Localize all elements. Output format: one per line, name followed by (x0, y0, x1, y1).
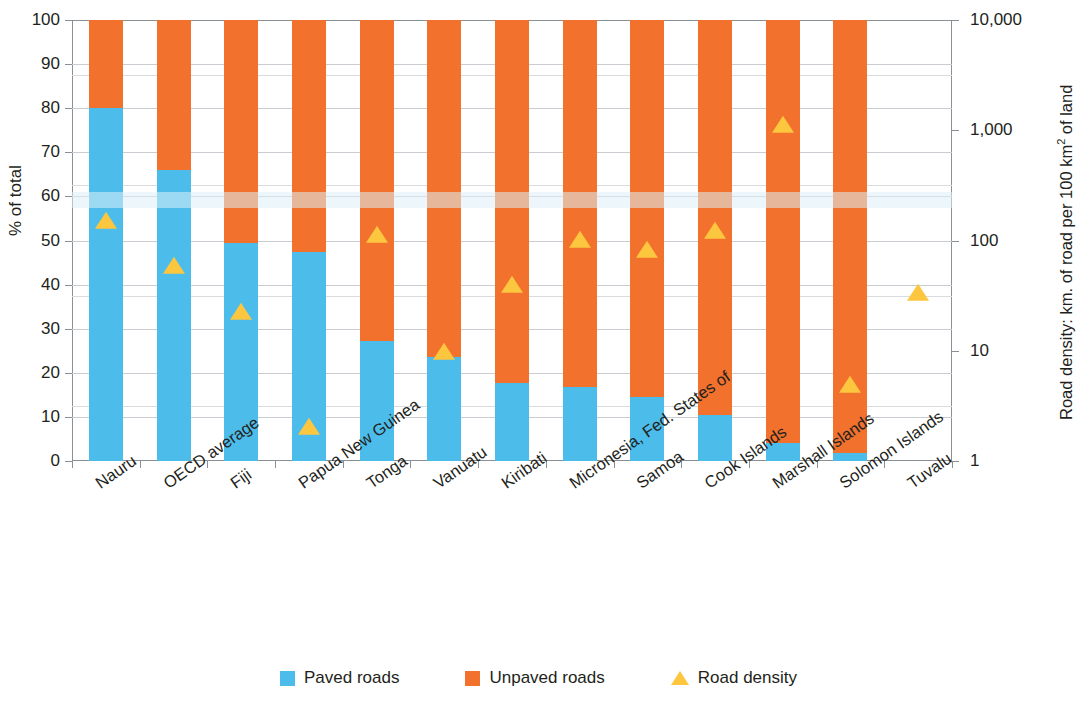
x-axis-tickmark (614, 461, 615, 468)
bar-segment-unpaved (89, 20, 123, 108)
bar-segment-paved (630, 397, 664, 461)
stacked-bar (495, 20, 529, 461)
y-axis-left-tick-label: 70 (14, 142, 60, 162)
legend-square-icon (280, 671, 295, 686)
bar-segment-paved (766, 443, 800, 461)
bar-segment-unpaved (427, 20, 461, 357)
x-axis-tickmark (343, 461, 344, 468)
y-axis-right-tick-label: 10 (970, 341, 989, 361)
x-axis-tickmark (275, 461, 276, 468)
road-density-marker (501, 275, 523, 292)
y-axis-left-tick-label: 30 (14, 319, 60, 339)
y-axis-left-tickmark (65, 373, 72, 374)
road-infrastructure-chart: % of total Road density: km. of road per… (0, 0, 1077, 705)
stacked-bar (157, 20, 191, 461)
road-density-marker (95, 212, 117, 229)
legend-label: Road density (698, 668, 797, 688)
y-axis-right-tick-label: 10,000 (970, 10, 1022, 30)
stacked-bar (89, 20, 123, 461)
y-axis-left-tickmark (65, 20, 72, 21)
x-axis-tickmark (410, 461, 411, 468)
bar-segment-unpaved (495, 20, 529, 383)
legend-item[interactable]: Road density (671, 668, 797, 688)
y-axis-right-tickmark (952, 130, 959, 131)
y-axis-right-tickmark (952, 241, 959, 242)
bar-segment-paved (563, 387, 597, 461)
bar-segment-unpaved (360, 20, 394, 341)
bar-segment-paved (224, 243, 258, 461)
bar-segment-paved (360, 341, 394, 461)
x-axis-tickmark (207, 461, 208, 468)
bar-segment-paved (427, 357, 461, 461)
y-axis-right-title: Road density: km. of road per 100 km2 of… (1055, 85, 1076, 420)
y-axis-left-tick-label: 80 (14, 98, 60, 118)
road-density-marker (433, 343, 455, 360)
y-axis-left-tickmark (65, 285, 72, 286)
road-density-marker (298, 418, 320, 435)
x-axis-tickmark (140, 461, 141, 468)
stacked-bar (833, 20, 867, 461)
x-axis-tickmark (546, 461, 547, 468)
stacked-bar (698, 20, 732, 461)
legend-square-icon (465, 671, 480, 686)
y-axis-left-tick-label: 10 (14, 407, 60, 427)
y-axis-right-tickmark (952, 461, 959, 462)
legend-item[interactable]: Unpaved roads (465, 668, 604, 688)
x-axis-tickmark (884, 461, 885, 468)
road-density-marker (366, 226, 388, 243)
y-axis-left-tickmark (65, 241, 72, 242)
road-density-marker (569, 230, 591, 247)
road-density-marker (907, 283, 929, 300)
road-density-marker (230, 303, 252, 320)
bar-segment-paved (495, 383, 529, 461)
stacked-bar (292, 20, 326, 461)
y-axis-left-tick-label: 40 (14, 275, 60, 295)
y-axis-left-tickmark (65, 152, 72, 153)
y-axis-left-tick-label: 90 (14, 54, 60, 74)
y-axis-right-tickmark (952, 351, 959, 352)
x-axis-label: Fiji (227, 465, 255, 493)
road-density-marker (636, 241, 658, 258)
x-axis-tickmark (952, 461, 953, 468)
x-axis-tickmark (817, 461, 818, 468)
y-axis-right-tick-label: 100 (970, 231, 998, 251)
y-axis-left-tickmark (65, 108, 72, 109)
road-density-marker (839, 376, 861, 393)
bar-segment-unpaved (224, 20, 258, 243)
x-axis-tickmark (72, 461, 73, 468)
bar-segment-unpaved (292, 20, 326, 252)
bar-segment-unpaved (766, 20, 800, 443)
y-axis-left-tick-label: 50 (14, 231, 60, 251)
stacked-bar (427, 20, 461, 461)
x-axis-tickmark (681, 461, 682, 468)
y-axis-left-tickmark (65, 64, 72, 65)
legend-label: Paved roads (304, 668, 399, 688)
legend-label: Unpaved roads (489, 668, 604, 688)
y-axis-left-tickmark (65, 417, 72, 418)
y-axis-left-tickmark (65, 329, 72, 330)
y-axis-left-tick-label: 100 (14, 10, 60, 30)
stacked-bar (224, 20, 258, 461)
y-axis-right-title-tail: of land (1057, 85, 1075, 139)
bar-segment-unpaved (698, 20, 732, 415)
bar-segment-paved (157, 170, 191, 461)
stacked-bar (766, 20, 800, 461)
bar-segment-paved (89, 108, 123, 461)
bar-segment-unpaved (630, 20, 664, 397)
y-axis-left-tick-label: 0 (14, 451, 60, 471)
y-axis-right-tick-label: 1,000 (970, 120, 1013, 140)
superscript-two: 2 (1055, 139, 1067, 145)
legend-item[interactable]: Paved roads (280, 668, 399, 688)
y-axis-right-title-text: Road density: km. of road per 100 km (1057, 145, 1075, 420)
road-density-marker (772, 115, 794, 132)
road-density-marker (704, 222, 726, 239)
y-axis-left-tick-label: 20 (14, 363, 60, 383)
y-axis-right-tickmark (952, 20, 959, 21)
y-axis-left-tickmark (65, 196, 72, 197)
plot-area (72, 20, 952, 461)
road-density-marker (163, 257, 185, 274)
y-axis-left-tickmark (65, 461, 72, 462)
y-axis-left-tick-label: 60 (14, 186, 60, 206)
bar-segment-unpaved (563, 20, 597, 387)
x-axis-tickmark (478, 461, 479, 468)
